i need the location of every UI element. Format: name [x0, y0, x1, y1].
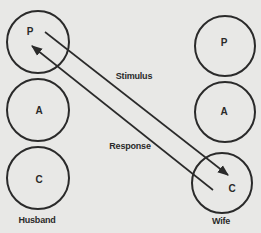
wife-child-label: C: [228, 183, 235, 194]
stimulus-label: Stimulus: [116, 71, 152, 81]
wife-adult-label: A: [220, 106, 227, 117]
husband-child-label: C: [35, 174, 42, 185]
husband-parent-circle: [7, 11, 69, 73]
wife-child-circle: [192, 153, 252, 213]
husband-label: Husband: [18, 215, 55, 225]
husband-parent-label: P: [27, 26, 33, 37]
wife-label: Wife: [212, 216, 230, 226]
transaction-diagram: [0, 0, 261, 233]
wife-parent-label: P: [221, 37, 227, 48]
stimulus-arrow: [45, 32, 228, 175]
response-arrow: [32, 46, 213, 190]
husband-adult-label: A: [35, 105, 42, 116]
response-label: Response: [109, 141, 150, 151]
